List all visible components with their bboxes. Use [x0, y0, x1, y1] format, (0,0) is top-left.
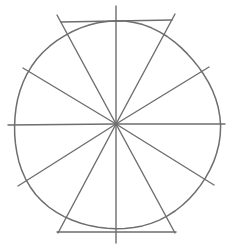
spoke-upper-right: [116, 67, 209, 124]
spoke-lower-right: [116, 124, 214, 185]
spoke-top-right: [116, 14, 175, 124]
top-tangent-line: [61, 20, 172, 22]
spoke-bottom-right: [116, 124, 175, 233]
spoke-lower-left: [18, 124, 116, 186]
spoke-upper-left: [23, 68, 116, 124]
spoke-bottom-left: [58, 124, 116, 233]
center-point: [114, 122, 117, 125]
diagram-canvas: [0, 0, 232, 250]
spoke-left-horizontal: [8, 124, 116, 125]
spoke-top-left: [57, 15, 116, 124]
radial-circle-diagram: [0, 0, 232, 250]
